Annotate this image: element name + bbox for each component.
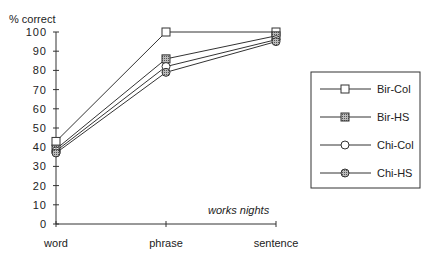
legend-label: Chi-HS (377, 167, 412, 179)
x-tick-label-sentence: sentence (254, 237, 299, 249)
legend: Bir-ColBir-HSChi-ColChi-HS (311, 72, 420, 188)
y-tick-label: 10 (33, 199, 47, 211)
legend-item-chi-col: Chi-Col (320, 139, 414, 151)
square-open-marker (162, 28, 170, 36)
x-tick-label-phrase: phrase (149, 237, 183, 249)
y-tick-label: 30 (33, 160, 47, 172)
square-open-legend-icon (341, 85, 349, 93)
y-tick-label: 90 (33, 45, 47, 57)
square-hatched-marker (162, 55, 170, 63)
legend-item-chi-hs: Chi-HS (320, 167, 412, 179)
y-tick-label: 50 (33, 122, 47, 134)
y-tick-label: 40 (33, 141, 47, 153)
square-open-marker (52, 137, 60, 145)
series-chi-col (52, 36, 280, 155)
square-hatched-legend-icon (341, 113, 349, 121)
y-tick-label: 70 (33, 84, 47, 96)
legend-label: Chi-Col (377, 139, 414, 151)
y-tick-label: 100 (26, 26, 47, 38)
circle-hatched-legend-icon (341, 169, 349, 177)
y-axis-title: % correct (9, 13, 55, 25)
legend-item-bir-col: Bir-Col (320, 83, 411, 95)
annotation-works-nights: works nights (208, 204, 270, 216)
y-tick-label: 60 (33, 103, 47, 115)
legend-item-bir-hs: Bir-HS (320, 111, 409, 123)
circle-hatched-marker (272, 38, 280, 46)
legend-label: Bir-HS (377, 111, 409, 123)
y-tick-label: 80 (33, 64, 47, 76)
data-series (52, 28, 280, 157)
y-tick-label: 20 (33, 180, 47, 192)
y-tick-label: 0 (40, 218, 47, 230)
circle-open-legend-icon (341, 141, 349, 149)
x-tick-label-word: word (43, 237, 68, 249)
line-chart: % correct 0102030405060708090100 wordphr… (0, 0, 445, 267)
circle-hatched-marker (162, 68, 170, 76)
x-axis: wordphrasesentence (43, 221, 298, 249)
y-axis: 0102030405060708090100 (26, 26, 59, 230)
circle-hatched-marker (52, 149, 60, 157)
legend-label: Bir-Col (377, 83, 411, 95)
